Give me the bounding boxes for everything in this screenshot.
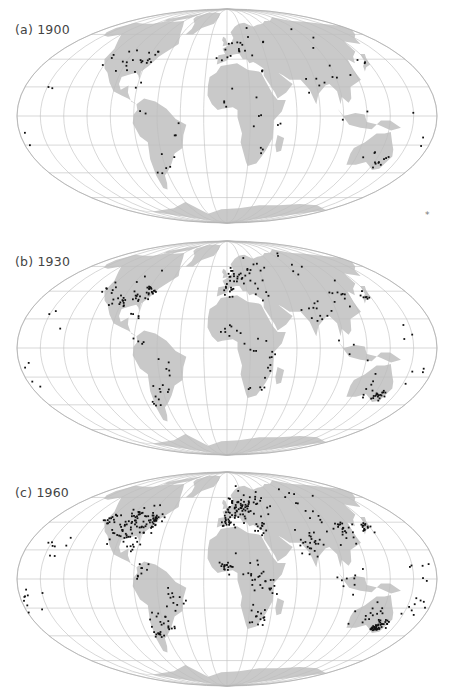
graticule xyxy=(17,472,437,686)
land-northAmerica xyxy=(104,21,184,104)
asterisk-mark: * xyxy=(425,210,430,220)
land-masses xyxy=(104,245,401,455)
panel-label-b: (b) 1930 xyxy=(15,254,70,269)
land-madagascar xyxy=(275,367,284,384)
panel-label-a: (a) 1900 xyxy=(15,22,70,37)
land-australia xyxy=(346,132,393,170)
land-australia xyxy=(346,364,393,402)
land-madagascar xyxy=(275,135,284,152)
graticule xyxy=(17,9,437,223)
graticule xyxy=(17,241,437,455)
land-madagascar xyxy=(275,598,284,615)
land-indonesia xyxy=(338,109,401,131)
land-masses xyxy=(104,13,401,223)
land-indonesia xyxy=(338,572,401,594)
map-panel-a: (a) 1900 xyxy=(0,0,449,232)
land-northAmerica xyxy=(104,253,184,336)
land-indonesia xyxy=(338,341,401,363)
land-northAmerica xyxy=(104,484,184,567)
map-panel-b: (b) 1930 xyxy=(0,232,449,464)
map-panel-c: (c) 1960 xyxy=(0,463,449,695)
panel-label-c: (c) 1960 xyxy=(15,485,69,500)
